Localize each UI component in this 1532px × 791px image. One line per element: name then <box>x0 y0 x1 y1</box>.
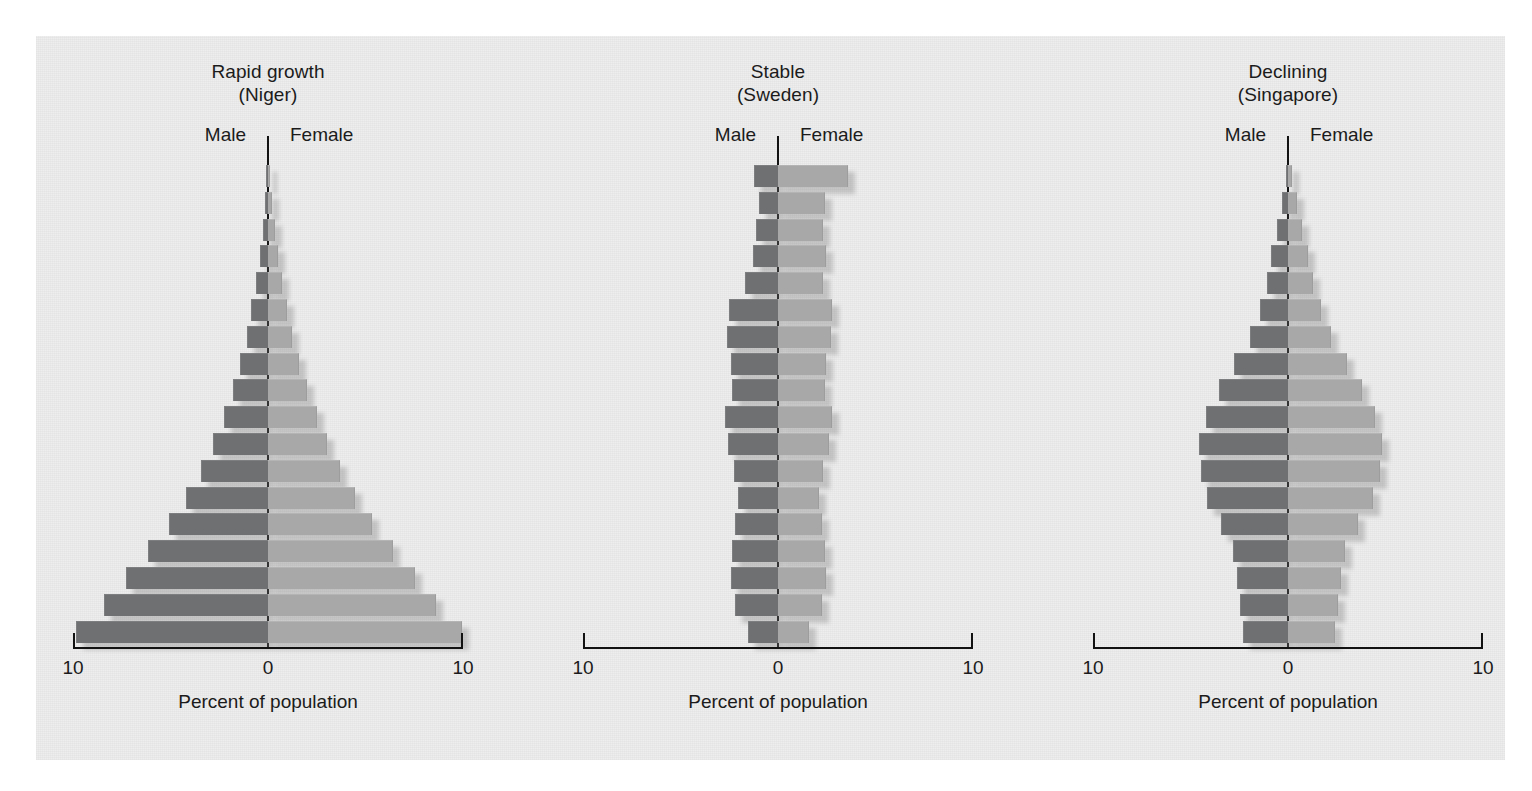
bar-female <box>778 594 822 616</box>
panel-title-line2: (Singapore) <box>1053 83 1523 106</box>
pyramid-row <box>33 433 503 455</box>
pyramid-row <box>33 513 503 535</box>
pyramid-row <box>33 621 503 643</box>
panel-title-line2: (Sweden) <box>543 83 1013 106</box>
pyramid-row <box>1053 567 1523 589</box>
x-axis-label-left: 10 <box>560 657 606 679</box>
bar-female <box>268 621 462 643</box>
bar-male <box>126 567 268 589</box>
figure-population-pyramids: Rapid growth(Niger)MaleFemale10010Percen… <box>0 0 1532 791</box>
pyramid-row <box>33 272 503 294</box>
bar-female <box>778 621 809 643</box>
x-axis-label-center: 0 <box>245 657 291 679</box>
bar-male <box>1206 406 1288 428</box>
x-axis-label-left: 10 <box>50 657 96 679</box>
pyramid-row <box>543 165 1013 187</box>
bar-male <box>1207 487 1288 509</box>
panel-title-line2: (Niger) <box>33 83 503 106</box>
bar-male <box>1243 621 1288 643</box>
pyramid-panel-2: Stable(Sweden)MaleFemale10010Percent of … <box>543 0 1013 724</box>
bar-male <box>240 353 268 375</box>
pyramid-row <box>543 299 1013 321</box>
pyramid-row <box>543 594 1013 616</box>
bar-female <box>268 299 287 321</box>
pyramid-row <box>543 245 1013 267</box>
bar-male <box>1237 567 1288 589</box>
bar-male <box>1234 353 1288 375</box>
bar-male <box>1240 594 1288 616</box>
x-axis-caption: Percent of population <box>33 691 503 713</box>
pyramid-row <box>543 326 1013 348</box>
bar-male <box>731 567 778 589</box>
bar-male <box>725 406 778 428</box>
bar-male <box>753 245 778 267</box>
bar-female <box>778 513 822 535</box>
pyramid-row <box>1053 353 1523 375</box>
bar-female <box>778 406 832 428</box>
bar-female <box>268 353 299 375</box>
bar-female <box>778 326 831 348</box>
bar-male <box>1233 540 1288 562</box>
pyramid-row <box>543 406 1013 428</box>
x-axis-caption: Percent of population <box>543 691 1013 713</box>
pyramid-row <box>543 192 1013 214</box>
bar-male <box>224 406 268 428</box>
pyramid-row <box>543 433 1013 455</box>
bar-male <box>1219 379 1288 401</box>
panel-title-line1: Stable <box>543 60 1013 83</box>
bar-male <box>148 540 268 562</box>
bar-male <box>754 165 778 187</box>
bar-female <box>268 406 317 428</box>
bar-male <box>186 487 268 509</box>
pyramid-row <box>1053 540 1523 562</box>
x-axis-label-center: 0 <box>755 657 801 679</box>
bar-male <box>732 379 778 401</box>
bar-female <box>268 513 372 535</box>
bar-female <box>268 567 415 589</box>
bar-male <box>1201 460 1288 482</box>
bar-female <box>1288 192 1297 214</box>
pyramid-row <box>1053 379 1523 401</box>
bar-male <box>738 487 778 509</box>
panel-title: Stable(Sweden) <box>543 60 1013 106</box>
x-axis-tick-right <box>461 633 463 648</box>
bar-female <box>778 460 823 482</box>
bar-female <box>778 219 823 241</box>
bar-female <box>1288 513 1358 535</box>
legend-label-male: Male <box>1225 124 1266 146</box>
legend-label-male: Male <box>715 124 756 146</box>
bar-male <box>759 192 779 214</box>
bar-female <box>1288 594 1338 616</box>
pyramid-row <box>33 406 503 428</box>
bar-female <box>778 567 826 589</box>
bar-male <box>748 621 778 643</box>
bar-female <box>1288 299 1321 321</box>
pyramid-row <box>33 219 503 241</box>
x-axis-label-right: 10 <box>1460 657 1506 679</box>
pyramid-row <box>1053 192 1523 214</box>
bar-shadow-female <box>275 172 277 194</box>
pyramid-row <box>1053 272 1523 294</box>
bar-female <box>268 165 270 187</box>
bar-shadow-female <box>1295 172 1299 194</box>
pyramid-panel-3: Declining(Singapore)MaleFemale10010Perce… <box>1053 0 1523 724</box>
pyramid-row <box>543 567 1013 589</box>
pyramid-row <box>33 165 503 187</box>
bar-male <box>745 272 778 294</box>
pyramid-row <box>33 192 503 214</box>
bar-male <box>729 299 778 321</box>
panel-title: Rapid growth(Niger) <box>33 60 503 106</box>
pyramid-row <box>33 594 503 616</box>
pyramid-panel-1: Rapid growth(Niger)MaleFemale10010Percen… <box>33 0 503 724</box>
legend-label-female: Female <box>1310 124 1373 146</box>
pyramid-row <box>1053 513 1523 535</box>
bar-female <box>1288 272 1313 294</box>
legend-label-female: Female <box>290 124 353 146</box>
pyramid-row <box>1053 165 1523 187</box>
bar-male <box>247 326 268 348</box>
bar-female <box>1288 353 1347 375</box>
bar-female <box>1288 379 1362 401</box>
bar-female <box>778 379 825 401</box>
bar-male <box>256 272 268 294</box>
bar-female <box>1288 567 1341 589</box>
